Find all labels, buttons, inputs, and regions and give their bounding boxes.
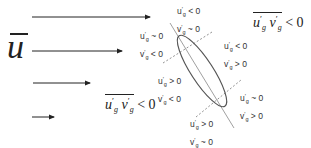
quadrant-label-top: u′g < 0 v′g ~ 0 — [177, 3, 200, 39]
quadrant-label-upper-right: u′g < 0 v′g > 0 — [224, 38, 247, 74]
u-prime-label: u′g ~ 0 — [140, 28, 163, 46]
v-prime-label: v′g < 0 — [140, 46, 163, 64]
quadrant-label-lower-left: u′g > 0 v′g < 0 — [158, 73, 181, 109]
covariance-overline-term: u′g v′g — [105, 94, 134, 114]
dashed-line-2 — [196, 80, 241, 117]
covariance-formula-lower-left: u′g v′g < 0 — [105, 94, 156, 114]
u-prime-label: u′g < 0 — [224, 38, 247, 56]
u-prime-label: u′g < 0 — [177, 3, 200, 21]
covariance-overline-term: u′g v′g — [253, 12, 282, 32]
u-prime-label: u′g > 0 — [190, 116, 213, 134]
covariance-formula-top-right: u′g v′g < 0 — [253, 12, 304, 32]
v-prime-label: v′g > 0 — [240, 108, 263, 126]
quadrant-label-bottom: u′g > 0 v′g ~ 0 — [190, 116, 213, 148]
v-prime-label: v′g ~ 0 — [177, 21, 200, 39]
mean-velocity-symbol: u — [7, 30, 24, 64]
quadrant-label-lower-right: u′g ~ 0 v′g > 0 — [240, 90, 263, 126]
u-prime-label: u′g ~ 0 — [240, 90, 263, 108]
v-prime-label: v′g < 0 — [158, 91, 181, 109]
overbar — [10, 33, 28, 35]
v-prime-label: v′g ~ 0 — [190, 134, 213, 148]
relation: < 0 — [285, 15, 303, 30]
u-prime-label: u′g > 0 — [158, 73, 181, 91]
relation: < 0 — [137, 97, 155, 112]
quadrant-label-upper-left: u′g ~ 0 v′g < 0 — [140, 28, 163, 64]
v-prime-label: v′g > 0 — [224, 56, 247, 74]
